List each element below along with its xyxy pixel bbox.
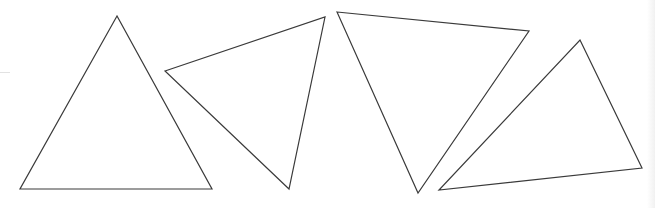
triangle-3 — [337, 12, 529, 193]
right-edge-shadow — [647, 0, 655, 208]
triangle-1 — [20, 16, 212, 189]
triangle-canvas — [0, 0, 655, 208]
triangle-4 — [439, 40, 642, 190]
triangle-2 — [165, 17, 325, 189]
